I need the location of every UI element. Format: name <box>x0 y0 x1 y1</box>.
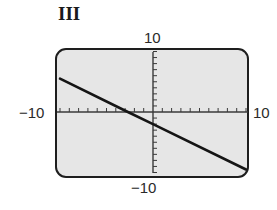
calculator-screen <box>0 0 277 210</box>
